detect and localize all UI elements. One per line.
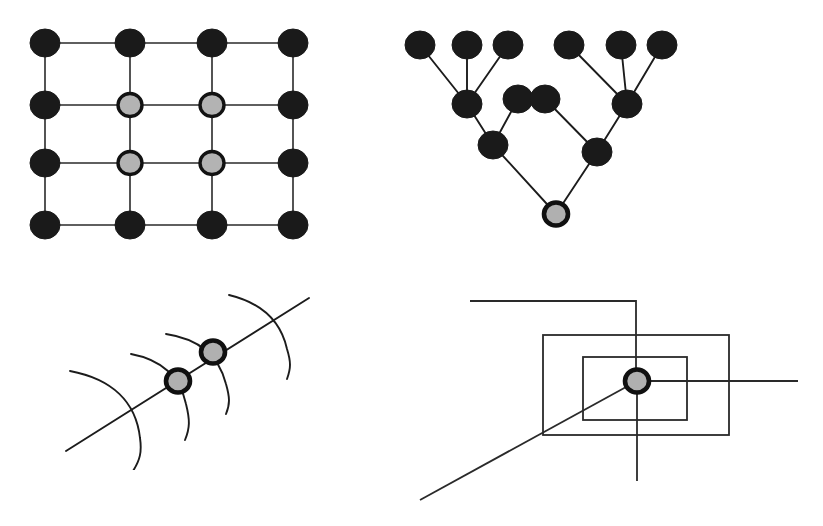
- levelset-nodes: [166, 341, 225, 393]
- nested-box-node-light: [625, 370, 649, 393]
- grid-node-light: [200, 152, 224, 175]
- grid-node-dark: [30, 91, 60, 119]
- grid-edges: [45, 43, 293, 225]
- panel-nested-boxes: [380, 280, 800, 520]
- tree-edges: [420, 45, 662, 214]
- tree-node-mid: [452, 90, 482, 118]
- outer-hook-polyline: [470, 301, 636, 381]
- grid-node-light: [118, 94, 142, 117]
- grid-node-dark: [278, 149, 308, 177]
- grid-node-dark: [197, 211, 227, 239]
- grid-node-dark: [197, 29, 227, 57]
- panel-level-set-curves: [50, 280, 340, 470]
- tree-node-leaf: [493, 31, 523, 59]
- tree-node-leaf: [606, 31, 636, 59]
- figure-root: [0, 0, 823, 526]
- panel-grid-lattice: [0, 0, 340, 270]
- grid-node-dark: [115, 211, 145, 239]
- grid-node-dark: [115, 29, 145, 57]
- levelset-node-light: [166, 370, 190, 393]
- grid-node-dark: [30, 211, 60, 239]
- tree-node-inner: [478, 131, 508, 159]
- diagonal-line: [420, 381, 637, 500]
- panel-hierarchy-tree: [390, 20, 720, 250]
- nested-box-nodes: [625, 370, 649, 393]
- grid-node-light: [118, 152, 142, 175]
- tree-node-root: [544, 203, 568, 226]
- grid-node-dark: [278, 29, 308, 57]
- grid-node-dark: [30, 29, 60, 57]
- tree-node-leaf: [405, 31, 435, 59]
- grid-nodes: [30, 29, 308, 239]
- levelset-curve: [131, 354, 189, 440]
- grid-node-dark: [278, 91, 308, 119]
- tree-node-mid: [530, 85, 560, 113]
- tree-node-inner: [582, 138, 612, 166]
- tree-node-mid: [612, 90, 642, 118]
- levelset-curve: [70, 371, 141, 470]
- tree-node-leaf: [452, 31, 482, 59]
- tree-node-leaf: [647, 31, 677, 59]
- grid-node-dark: [278, 211, 308, 239]
- grid-node-light: [200, 94, 224, 117]
- tree-node-mid: [503, 85, 533, 113]
- levelset-curve: [229, 295, 290, 379]
- nested-box-lines: [420, 301, 798, 500]
- levelset-node-light: [201, 341, 225, 364]
- grid-node-dark: [30, 149, 60, 177]
- tree-node-leaf: [554, 31, 584, 59]
